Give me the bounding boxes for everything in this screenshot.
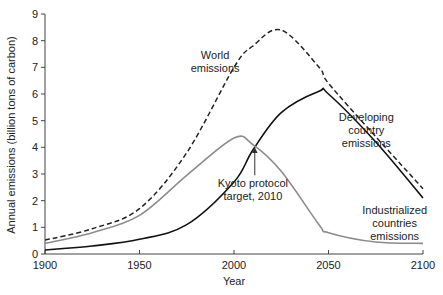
x-tick-label: 2050	[316, 259, 340, 271]
annotations: WorldemissionsDevelopingcountryemissions…	[191, 49, 427, 242]
y-tick-label: 2	[32, 195, 38, 207]
y-axis: 0123456789	[32, 8, 45, 260]
x-tick-label: 1950	[127, 259, 151, 271]
y-axis-label: Annual emissions (billion tons of carbon…	[5, 36, 17, 234]
y-tick-label: 4	[32, 141, 38, 153]
y-tick-label: 5	[32, 115, 38, 127]
y-tick-label: 7	[32, 61, 38, 73]
x-axis: 19001950200020502100	[33, 250, 435, 271]
annotation-label: Industrializedcountriesemissions	[362, 204, 427, 242]
y-tick-label: 1	[32, 221, 38, 233]
annotation-label: Worldemissions	[191, 49, 240, 74]
x-tick-label: 1900	[33, 259, 57, 271]
y-tick-label: 9	[32, 8, 38, 20]
y-tick-label: 6	[32, 88, 38, 100]
x-tick-label: 2000	[222, 259, 246, 271]
x-tick-label: 2100	[411, 259, 435, 271]
x-axis-label: Year	[223, 275, 246, 287]
y-tick-label: 8	[32, 35, 38, 47]
annotation-label: Developingcountryemissions	[339, 111, 394, 149]
y-tick-label: 3	[32, 168, 38, 180]
annotation-label: Kyoto protocoltarget, 2010	[218, 177, 288, 202]
emissions-chart: 0123456789 19001950200020502100 Annual e…	[0, 0, 443, 295]
